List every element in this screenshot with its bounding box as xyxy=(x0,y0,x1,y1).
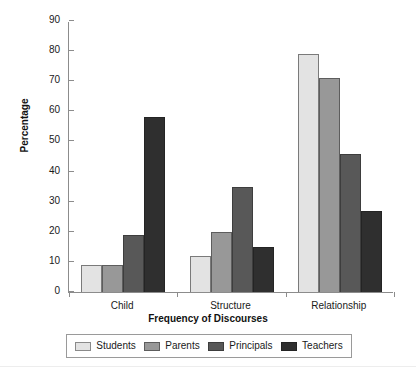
legend-label: Principals xyxy=(229,340,272,352)
bar-teachers-child xyxy=(144,117,165,292)
chart-legend: StudentsParentsPrincipalsTeachers xyxy=(66,334,352,358)
legend-swatch-students xyxy=(75,342,91,351)
legend-item-principals[interactable]: Principals xyxy=(208,340,272,352)
x-axis-tick xyxy=(286,292,287,297)
x-axis-tick xyxy=(177,292,178,297)
y-tick-mark xyxy=(69,261,74,262)
legend-item-parents[interactable]: Parents xyxy=(144,340,199,352)
bar-parents-relationship xyxy=(319,78,340,292)
y-tick-mark xyxy=(69,140,74,141)
legend-item-teachers[interactable]: Teachers xyxy=(281,340,343,352)
y-tick-label: 80 xyxy=(49,44,60,56)
y-tick-label: 10 xyxy=(49,255,60,267)
x-axis-tick xyxy=(69,292,70,297)
legend-swatch-principals xyxy=(208,342,224,351)
bar-principals-structure xyxy=(232,187,253,292)
y-tick-label: 20 xyxy=(49,225,60,237)
legend-item-students[interactable]: Students xyxy=(75,340,135,352)
bar-parents-child xyxy=(102,265,123,292)
plot-area: 0102030405060708090 xyxy=(68,22,393,293)
y-tick-mark xyxy=(69,20,74,21)
y-tick-label: 70 xyxy=(49,74,60,86)
y-tick-mark xyxy=(69,201,74,202)
legend-label: Students xyxy=(96,340,135,352)
y-tick-mark xyxy=(69,50,74,51)
y-tick-mark xyxy=(69,110,74,111)
bottom-divider xyxy=(0,366,416,367)
x-axis-tick xyxy=(394,292,395,297)
y-tick-label: 50 xyxy=(49,134,60,146)
y-tick-label: 90 xyxy=(49,14,60,26)
bar-students-child xyxy=(81,265,102,292)
bar-teachers-structure xyxy=(253,247,274,292)
legend-swatch-parents xyxy=(144,342,160,351)
bar-group xyxy=(190,22,274,292)
y-tick-label: 30 xyxy=(49,195,60,207)
legend-label: Parents xyxy=(165,340,199,352)
y-axis-title: Percentage xyxy=(19,66,30,186)
y-tick-label: 60 xyxy=(49,104,60,116)
x-axis-title: Frequency of Discourses xyxy=(0,313,416,324)
x-axis-category-label: Child xyxy=(72,300,172,312)
bar-parents-structure xyxy=(211,232,232,292)
x-axis-category-label: Structure xyxy=(181,300,281,312)
bar-students-relationship xyxy=(298,54,319,292)
bar-principals-child xyxy=(123,235,144,292)
x-axis-category-label: Relationship xyxy=(289,300,389,312)
bar-teachers-relationship xyxy=(361,211,382,292)
bar-group xyxy=(298,22,382,292)
legend-label: Teachers xyxy=(302,340,343,352)
y-tick-mark xyxy=(69,171,74,172)
y-tick-label: 0 xyxy=(54,285,60,297)
y-tick-label: 40 xyxy=(49,165,60,177)
bar-chart: Percentage 0102030405060708090 Frequency… xyxy=(0,0,416,376)
y-tick-mark xyxy=(69,80,74,81)
y-tick-mark xyxy=(69,231,74,232)
bar-students-structure xyxy=(190,256,211,292)
legend-swatch-teachers xyxy=(281,342,297,351)
bar-principals-relationship xyxy=(340,154,361,293)
bar-group xyxy=(81,22,165,292)
